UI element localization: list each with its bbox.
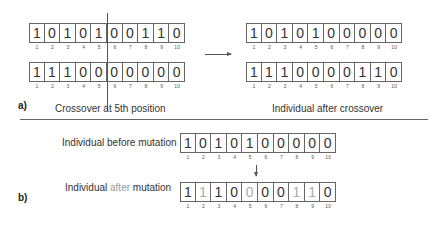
gene-cell: 07 <box>123 23 139 51</box>
gene-bit: 0 <box>340 23 356 43</box>
gene-cell: 18 <box>355 62 371 90</box>
gene-bit: 0 <box>274 182 290 202</box>
gene-bit: 0 <box>386 62 402 82</box>
gene-bit: 1 <box>29 23 45 43</box>
gene-bit: 1 <box>371 62 387 82</box>
gene-cell: 04 <box>227 182 243 210</box>
gene-cell: 010 <box>386 23 402 51</box>
gene-cell: 13 <box>211 133 227 161</box>
gene-index: 2 <box>262 43 278 51</box>
gene-cell: 11 <box>180 133 196 161</box>
gene-cell: 19 <box>305 182 321 210</box>
gene-bit: 0 <box>371 23 387 43</box>
gene-cell: 15 <box>308 23 324 51</box>
gene-index: 6 <box>258 202 274 210</box>
gene-index: 4 <box>227 202 243 210</box>
gene-index: 8 <box>289 202 305 210</box>
gene-cell: 02 <box>196 133 212 161</box>
gene-cell: 12 <box>196 182 212 210</box>
gene-cell: 04 <box>76 62 92 90</box>
gene-bit: 1 <box>262 62 278 82</box>
gene-cell: 05 <box>91 62 107 90</box>
gene-cell: 07 <box>274 182 290 210</box>
gene-cell: 010 <box>320 133 336 161</box>
gene-index: 3 <box>211 202 227 210</box>
gene-bit: 0 <box>258 133 274 153</box>
gene-cell: 13 <box>60 23 76 51</box>
gene-index: 3 <box>277 82 293 90</box>
gene-bit: 0 <box>308 62 324 82</box>
gene-cell: 09 <box>305 133 321 161</box>
gene-index: 4 <box>293 43 309 51</box>
gene-cell: 07 <box>123 62 139 90</box>
gene-index: 2 <box>262 82 278 90</box>
gene-bit: 0 <box>340 62 356 82</box>
gene-index: 8 <box>355 82 371 90</box>
gene-cell: 04 <box>293 62 309 90</box>
gene-cell: 12 <box>45 62 61 90</box>
gene-cell: 06 <box>258 133 274 161</box>
gene-bit: 0 <box>76 62 92 82</box>
gene-index: 7 <box>274 202 290 210</box>
gene-bit: 0 <box>262 23 278 43</box>
gene-cell: 02 <box>45 23 61 51</box>
gene-cell: 07 <box>274 133 290 161</box>
gene-index: 8 <box>355 43 371 51</box>
gene-index: 8 <box>289 153 305 161</box>
after-mutation-label-suffix: mutation <box>130 182 171 193</box>
gene-bit: 1 <box>196 182 212 202</box>
gene-index: 6 <box>324 82 340 90</box>
gene-index: 5 <box>308 43 324 51</box>
gene-bit: 1 <box>45 62 61 82</box>
gene-bit: 0 <box>324 62 340 82</box>
gene-cell: 010 <box>169 23 185 51</box>
gene-index: 5 <box>242 202 258 210</box>
gene-index: 5 <box>242 153 258 161</box>
gene-index: 7 <box>123 82 139 90</box>
gene-index: 10 <box>169 43 185 51</box>
gene-bit: 1 <box>211 182 227 202</box>
gene-bit: 1 <box>60 23 76 43</box>
gene-cell: 18 <box>289 182 305 210</box>
gene-cell: 010 <box>386 62 402 90</box>
gene-index: 9 <box>305 202 321 210</box>
crossover-caption: Crossover at 5th position <box>55 103 166 114</box>
gene-index: 3 <box>60 82 76 90</box>
gene-cell: 09 <box>371 23 387 51</box>
offspring-2-chromosome: 111213040506071819010 <box>246 62 402 90</box>
gene-cell: 13 <box>277 62 293 90</box>
gene-bit: 0 <box>289 133 305 153</box>
gene-bit: 0 <box>274 133 290 153</box>
gene-cell: 13 <box>277 23 293 51</box>
gene-index: 10 <box>386 43 402 51</box>
gene-bit: 1 <box>242 133 258 153</box>
gene-cell: 15 <box>242 133 258 161</box>
gene-index: 7 <box>123 43 139 51</box>
gene-bit: 1 <box>277 62 293 82</box>
gene-bit: 1 <box>211 133 227 153</box>
gene-bit: 1 <box>154 23 170 43</box>
gene-bit: 0 <box>91 62 107 82</box>
gene-bit: 1 <box>246 23 262 43</box>
section-b-tag: b) <box>18 192 27 203</box>
gene-index: 6 <box>107 43 123 51</box>
gene-cell: 02 <box>262 23 278 51</box>
gene-cell: 04 <box>76 23 92 51</box>
gene-bit: 1 <box>180 182 196 202</box>
gene-bit: 0 <box>227 182 243 202</box>
gene-bit: 0 <box>293 23 309 43</box>
gene-index: 3 <box>277 43 293 51</box>
gene-cell: 010 <box>169 62 185 90</box>
gene-bit: 0 <box>258 182 274 202</box>
after-mutation-chromosome: 111213040506071819010 <box>180 182 336 210</box>
offspring-1-chromosome: 110213041506070809010 <box>246 23 402 51</box>
gene-index: 4 <box>227 153 243 161</box>
gene-bit: 0 <box>123 23 139 43</box>
after-mutation-label-highlight: after <box>110 182 130 193</box>
gene-index: 10 <box>320 153 336 161</box>
gene-index: 1 <box>246 82 262 90</box>
gene-index: 2 <box>45 43 61 51</box>
gene-index: 1 <box>180 153 196 161</box>
crossover-cut-line <box>107 13 108 111</box>
gene-index: 7 <box>274 153 290 161</box>
